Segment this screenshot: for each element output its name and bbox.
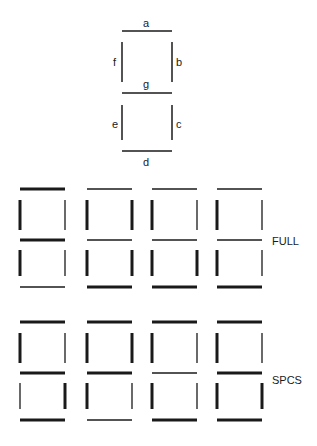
digit-rows <box>20 189 262 420</box>
label-a: a <box>143 17 150 29</box>
seven-segment-diagram: a b c d e f g FULL SPCS <box>0 0 317 446</box>
digit-full-4 <box>217 189 262 287</box>
digit-spcs-1 <box>20 322 65 420</box>
label-f: f <box>113 56 117 68</box>
label-d: d <box>143 156 149 168</box>
label-b: b <box>176 56 182 68</box>
row-label-full: FULL <box>272 235 299 247</box>
label-e: e <box>112 118 118 130</box>
digit-full-3 <box>152 189 197 287</box>
label-g: g <box>143 78 149 90</box>
digit-full-2 <box>87 189 132 287</box>
segment-legend <box>122 31 172 151</box>
digit-spcs-2 <box>87 322 132 420</box>
digit-spcs-3 <box>152 322 197 420</box>
row-label-spcs: SPCS <box>272 374 302 386</box>
digit-spcs-4 <box>217 322 262 420</box>
digit-full-1 <box>20 189 65 287</box>
label-c: c <box>176 118 182 130</box>
